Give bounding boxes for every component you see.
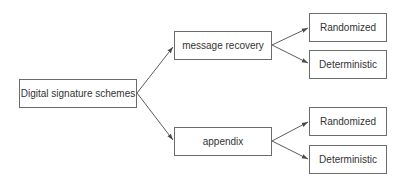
node-appendix-randomized: Randomized [309,107,387,136]
arrow-appendix-to-deterministic [272,141,308,159]
node-label: Randomized [320,22,376,33]
node-label: Deterministic [319,59,377,70]
node-message-recovery-deterministic: Deterministic [309,50,387,79]
node-root: Digital signature schemes [19,79,137,108]
node-message-recovery-randomized: Randomized [309,13,387,42]
arrow-appendix-to-randomized [272,122,308,141]
arrow-message-recovery-to-deterministic [272,45,308,63]
arrow-root-to-appendix [137,93,173,140]
node-appendix-deterministic: Deterministic [309,145,387,174]
node-label: Deterministic [319,154,377,165]
node-message-recovery-label: message recovery [182,40,264,51]
arrow-root-to-message-recovery [137,47,173,93]
arrow-message-recovery-to-randomized [272,28,308,45]
node-message-recovery: message recovery [174,31,272,60]
node-label: Randomized [320,116,376,127]
node-appendix: appendix [174,127,272,156]
classification-diagram: Digital signature schemes message recove… [0,0,408,181]
node-root-label: Digital signature schemes [21,88,136,99]
node-appendix-label: appendix [203,136,244,147]
